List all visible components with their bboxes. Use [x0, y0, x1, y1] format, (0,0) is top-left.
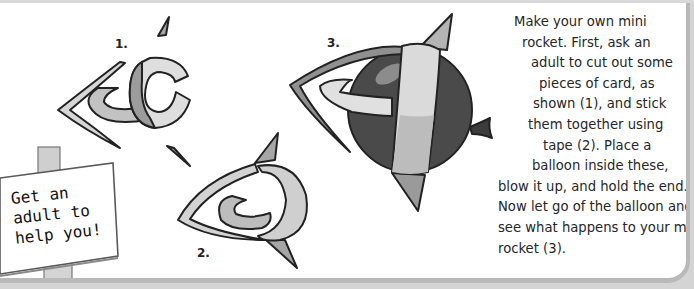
step-label-3: 3.	[327, 36, 340, 50]
instruction-line: balloon inside these,	[498, 156, 688, 177]
step-label-1: 1.	[115, 37, 128, 51]
instruction-line: tape (2). Place a	[498, 136, 688, 157]
instruction-line: Now let go of the balloon and	[498, 197, 688, 218]
instruction-line: them together using	[498, 115, 688, 136]
fin-bottom-icon	[167, 146, 190, 166]
instruction-line: adult to cut out some	[498, 53, 688, 74]
instructions-text: Make your own mini rocket. First, ask an…	[498, 12, 688, 259]
instruction-line: pieces of card, as	[498, 74, 688, 95]
fin-top-icon	[158, 17, 169, 36]
instruction-line: rocket. First, ask an	[498, 33, 688, 54]
activity-panel: 1. 2. 3. Get an adult to help you! Make …	[0, 3, 690, 283]
instruction-line: Make your own mini	[498, 12, 688, 33]
step3-balloon-rocket	[290, 14, 492, 211]
instruction-line: see what happens to your mini	[498, 218, 688, 239]
step-label-2: 2.	[197, 246, 210, 260]
sign-message: Get an adult to help you!	[10, 178, 126, 249]
instruction-line: shown (1), and stick	[498, 94, 688, 115]
instruction-line: rocket (3).	[498, 239, 688, 260]
instruction-line: blow it up, and hold the end.	[498, 177, 688, 198]
